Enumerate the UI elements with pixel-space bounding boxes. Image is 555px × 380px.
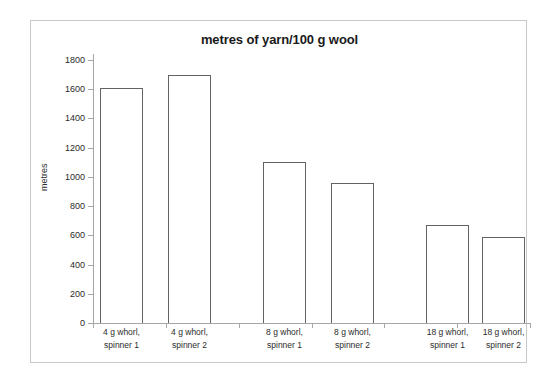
y-axis-tick-label: 1200 [65,143,85,153]
category-label-line-2: spinner 2 [308,339,398,352]
y-axis-tick [88,148,93,149]
chart-frame: metres of yarn/100 g wool metres 0200400… [30,20,527,363]
y-axis-tick-label: 200 [70,289,85,299]
bar [426,225,469,323]
bar [263,162,306,323]
y-axis-tick-label: 600 [70,230,85,240]
y-axis-tick-label: 400 [70,260,85,270]
y-axis-tick [88,294,93,295]
y-axis-tick [88,235,93,236]
plot-area: 020040060080010001200140016001800 [93,60,530,323]
category-label-line-2: spinner 2 [459,339,549,352]
x-axis-category-label: 8 g whorl,spinner 2 [308,326,398,352]
x-axis-category-label: 18 g whorl,spinner 2 [459,326,549,352]
category-label-line-1: 4 g whorl, [145,326,235,339]
category-label-line-1: 8 g whorl, [308,326,398,339]
category-label-line-1: 18 g whorl, [459,326,549,339]
bar [482,237,525,323]
category-label-line-2: spinner 2 [145,339,235,352]
y-axis-tick-label: 1600 [65,84,85,94]
chart-title: metres of yarn/100 g wool [31,32,528,47]
bar [331,183,374,323]
y-axis-tick [88,265,93,266]
y-axis-tick [88,177,93,178]
y-axis-tick [88,60,93,61]
y-axis-tick-label: 1800 [65,55,85,65]
y-axis-tick-label: 800 [70,201,85,211]
y-axis-tick [88,89,93,90]
y-axis-tick [88,118,93,119]
bar [100,88,143,323]
y-axis-tick [88,206,93,207]
y-axis-tick-label: 1000 [65,172,85,182]
chart-screenshot: metres of yarn/100 g wool metres 0200400… [0,0,555,380]
x-axis-category-label: 4 g whorl,spinner 2 [145,326,235,352]
bar [168,75,211,323]
x-axis-category-labels: 4 g whorl,spinner 14 g whorl,spinner 28 … [93,326,530,360]
value-axis-line [93,54,94,323]
y-axis-tick-label: 1400 [65,113,85,123]
y-axis-title: metres [39,163,49,191]
